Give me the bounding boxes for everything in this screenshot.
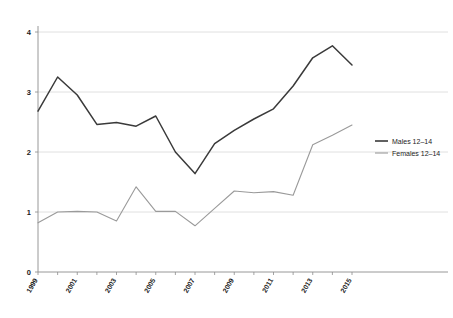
- x-axis-label-2005: 2005: [143, 277, 157, 294]
- axes-group: [38, 26, 448, 272]
- x-axis-labels-group: 199920012003200520072009201120132015: [25, 277, 353, 294]
- series-line-females: [38, 125, 352, 226]
- series-line-males: [38, 46, 352, 174]
- y-axis-labels-group: 01234: [27, 28, 32, 277]
- x-axis-label-1999: 1999: [25, 277, 39, 294]
- legend: Males 12–14Females 12–14: [375, 138, 440, 157]
- chart-canvas: 01234 1999200120032005200720092011201320…: [0, 0, 453, 318]
- gridlines-group: [38, 32, 448, 212]
- x-axis-label-2001: 2001: [64, 277, 78, 294]
- series-group: [38, 46, 352, 226]
- y-axis-label-3: 3: [27, 88, 31, 97]
- y-axis-label-2: 2: [27, 148, 31, 157]
- y-axis-label-4: 4: [27, 28, 32, 37]
- x-axis-label-2015: 2015: [339, 277, 353, 294]
- x-axis-label-2013: 2013: [300, 277, 314, 294]
- legend-label-females: Females 12–14: [392, 150, 440, 157]
- line-chart: 01234 1999200120032005200720092011201320…: [0, 0, 453, 318]
- x-axis-label-2011: 2011: [261, 277, 275, 294]
- legend-label-males: Males 12–14: [392, 138, 432, 145]
- x-axis-label-2009: 2009: [221, 277, 235, 294]
- x-axis-label-2007: 2007: [182, 277, 196, 294]
- y-axis-label-1: 1: [27, 208, 31, 217]
- x-axis-label-2003: 2003: [104, 277, 118, 294]
- y-axis-label-0: 0: [27, 268, 31, 277]
